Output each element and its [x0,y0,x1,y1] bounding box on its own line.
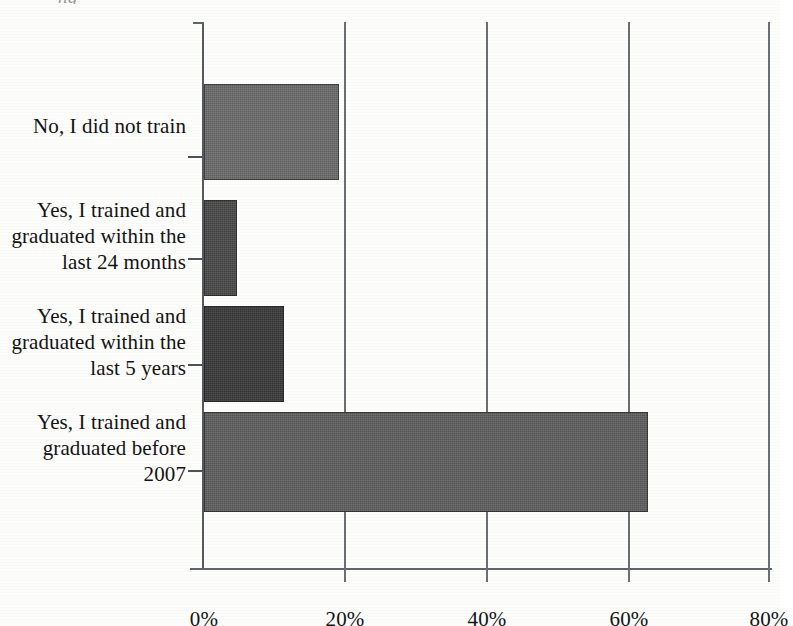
cut-off-title-text: ng [58,0,478,4]
y-axis-label-trained-before-2007: Yes, I trained and graduated before 2007 [0,409,186,487]
y-tick-mark-1 [188,156,202,158]
y-tick-mark-2 [188,258,202,260]
x-tick-label-60: 60% [584,607,674,626]
bar-trained-before-2007 [204,412,648,512]
x-tick-label-80: 80% [724,607,793,626]
y-axis-label-trained-within-5-years: Yes, I trained and graduated within the … [0,303,186,381]
gridline-80-percent [768,22,770,582]
y-tick-mark-3 [188,364,202,366]
y-tick-mark-4 [188,470,202,472]
y-axis-top-cap [193,22,204,24]
x-axis-baseline [190,568,772,570]
y-axis-label-trained-within-24-months: Yes, I trained and graduated within the … [0,197,186,275]
y-axis-label-no-did-not-train: No, I did not train [0,113,186,139]
x-tick-label-40: 40% [442,607,532,626]
x-tick-label-0: 0% [159,607,249,626]
x-tick-label-20: 20% [300,607,390,626]
bar-trained-within-24-months [204,200,237,296]
bar-trained-within-5-years [204,306,284,402]
bar-no-did-not-train [204,84,339,180]
plot-area: 0% 20% 40% 60% 80% [202,22,770,570]
